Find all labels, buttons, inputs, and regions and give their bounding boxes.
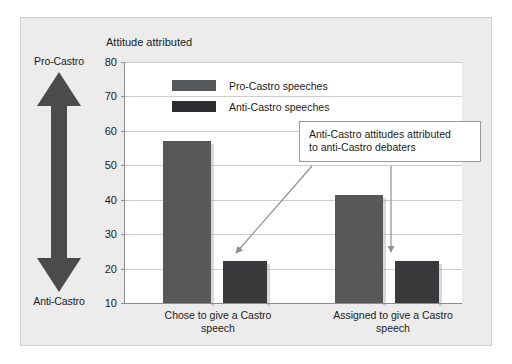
ytick-label-40: 40 bbox=[105, 194, 117, 206]
ytick-mark-40 bbox=[121, 200, 125, 201]
ytick-label-50: 50 bbox=[105, 159, 117, 171]
ytick-mark-70 bbox=[121, 96, 125, 97]
pro-castro-axis-label: Pro-Castro bbox=[22, 55, 96, 67]
ytick-label-10: 10 bbox=[105, 297, 117, 309]
bar-pro-castro-assigned[interactable] bbox=[335, 195, 383, 304]
callout-annotation: Anti-Castro attitudes attributed to anti… bbox=[299, 121, 481, 162]
ytick-mark-20 bbox=[121, 269, 125, 270]
callout-line-1: Anti-Castro attitudes attributed bbox=[309, 128, 472, 141]
legend-swatch-pro-castro bbox=[172, 80, 216, 91]
ytick-label-30: 30 bbox=[105, 228, 117, 240]
category-label-assigned: Assigned to give a Castro speech bbox=[323, 309, 463, 334]
ytick-mark-50 bbox=[121, 165, 125, 166]
chart-legend: Pro-Castro speeches Anti-Castro speeches bbox=[172, 77, 329, 119]
bar-anti-castro-chose[interactable] bbox=[223, 261, 267, 303]
legend-label-anti-castro: Anti-Castro speeches bbox=[229, 101, 329, 113]
legend-item-anti-castro: Anti-Castro speeches bbox=[172, 98, 329, 115]
legend-label-pro-castro: Pro-Castro speeches bbox=[229, 80, 328, 92]
ytick-label-60: 60 bbox=[105, 125, 117, 137]
anti-castro-axis-label: Anti-Castro bbox=[20, 295, 98, 307]
ytick-label-20: 20 bbox=[105, 263, 117, 275]
ytick-mark-30 bbox=[121, 234, 125, 235]
ytick-label-80: 80 bbox=[105, 56, 117, 68]
gridline-80 bbox=[125, 62, 462, 63]
ytick-label-70: 70 bbox=[105, 90, 117, 102]
legend-item-pro-castro: Pro-Castro speeches bbox=[172, 77, 329, 94]
bar-anti-castro-assigned[interactable] bbox=[395, 261, 439, 303]
double-headed-vertical-arrow-icon bbox=[34, 72, 84, 292]
figure-container: Pro-Castro Anti-Castro Attitude attribut… bbox=[0, 0, 512, 364]
ytick-mark-60 bbox=[121, 131, 125, 132]
bar-pro-castro-chose[interactable] bbox=[163, 141, 211, 303]
ytick-mark-10 bbox=[121, 303, 125, 304]
legend-swatch-anti-castro bbox=[172, 101, 216, 112]
callout-line-2: to anti-Castro debaters bbox=[309, 141, 472, 154]
chart-title: Attitude attributed bbox=[106, 36, 192, 48]
category-label-chose: Chose to give a Castro speech bbox=[153, 309, 283, 334]
ytick-mark-80 bbox=[121, 62, 125, 63]
